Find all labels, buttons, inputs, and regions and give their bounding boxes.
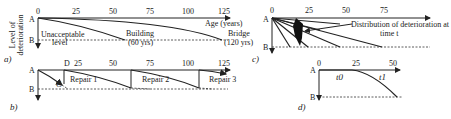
- point-a: A: [29, 66, 35, 75]
- svg-text:75: 75: [380, 6, 388, 15]
- svg-text:75: 75: [146, 59, 154, 68]
- panel-c: 0 25 50 75 A B Distribution of deteriora…: [252, 6, 450, 64]
- svg-text:(60 yrs): (60 yrs): [128, 38, 153, 47]
- svg-text:level: level: [52, 38, 68, 47]
- panel-a: 0 25 50 75 100 125 Age (years) A B Unacc…: [4, 7, 253, 64]
- propagation-phase: [352, 70, 397, 97]
- deterioration-curve-1: [38, 70, 62, 85]
- svg-text:0: 0: [270, 6, 274, 15]
- svg-text:time t: time t: [380, 29, 399, 38]
- repair-2-label: Repair 2: [142, 75, 169, 84]
- x-axis-title: Age (years): [205, 19, 243, 28]
- deterioration-diagram: Level of deterioration 0 25 50 75 100 12…: [0, 0, 451, 119]
- tick-0: 0: [36, 7, 40, 16]
- repair-3-label: Repair 3: [209, 75, 236, 84]
- point-a: A: [263, 15, 269, 24]
- panel-label-d: d): [298, 102, 306, 112]
- building-label: Building: [126, 29, 154, 38]
- panel-label-b: b): [10, 102, 18, 112]
- point-b: B: [29, 85, 34, 94]
- tick-25: 25: [72, 7, 80, 16]
- svg-text:100: 100: [182, 59, 194, 68]
- point-d: D: [64, 59, 70, 68]
- svg-text:25: 25: [352, 59, 360, 68]
- tick-50: 50: [109, 7, 117, 16]
- svg-text:125: 125: [218, 59, 230, 68]
- svg-text:50: 50: [389, 59, 397, 68]
- point-a: A: [29, 15, 35, 24]
- point-b: B: [29, 36, 34, 45]
- panel-b: D 25 50 75 100 125 A B C Repair 1 Repair…: [10, 59, 236, 112]
- tick-125: 125: [218, 7, 230, 16]
- deterioration-curve-4: [199, 70, 226, 74]
- repair-1-label: Repair 1: [70, 75, 97, 84]
- panel-label-c: c): [252, 54, 259, 64]
- svg-text:25: 25: [305, 6, 313, 15]
- svg-text:0: 0: [317, 59, 321, 68]
- t0-label: t0: [336, 72, 344, 82]
- point-b: B: [263, 43, 268, 52]
- point-b: B: [310, 93, 315, 102]
- y-axis-label: Level of deterioration: [8, 15, 25, 56]
- point-a: A: [310, 66, 316, 75]
- panel-d: 0 25 50 A B t0 t1 d): [298, 59, 402, 112]
- svg-text:(120 yrs): (120 yrs): [224, 38, 253, 47]
- svg-text:50: 50: [342, 6, 350, 15]
- panel-label-a: a): [4, 54, 12, 64]
- svg-text:deterioration: deterioration: [16, 15, 25, 56]
- distribution-annotation: Distribution of deterioration at: [351, 20, 450, 29]
- svg-text:50: 50: [109, 59, 117, 68]
- svg-text:25: 25: [74, 59, 82, 68]
- tick-75: 75: [146, 7, 154, 16]
- tick-100: 100: [182, 7, 194, 16]
- bridge-label: Bridge: [228, 29, 250, 38]
- t1-label: t1: [379, 72, 386, 82]
